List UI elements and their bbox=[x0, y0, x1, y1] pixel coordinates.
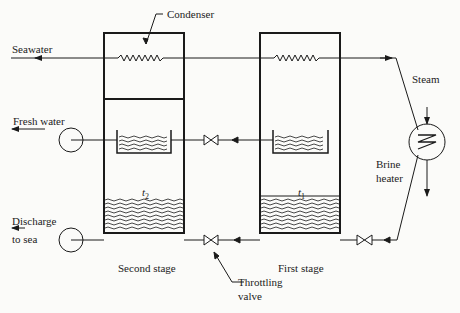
wave-pattern bbox=[105, 136, 339, 229]
fresh-water-label: Fresh water bbox=[13, 115, 65, 128]
seawater-label: Seawater bbox=[12, 43, 52, 56]
desalination-diagram bbox=[0, 0, 460, 313]
condenser-coil-2 bbox=[118, 55, 170, 61]
t1-label: t1 bbox=[298, 186, 305, 203]
second-stage-label: Second stage bbox=[118, 262, 176, 275]
throttling-valve-1 bbox=[357, 235, 372, 245]
throttling-label-1: Throttling bbox=[238, 276, 283, 289]
second-stage-vessel bbox=[104, 33, 184, 99]
steam-label: Steam bbox=[412, 73, 440, 86]
brine-heater-label-1: Brine bbox=[376, 158, 400, 171]
fresh-water-valve bbox=[204, 135, 218, 145]
discharge-label-1: Discharge bbox=[12, 215, 56, 228]
t2-label: t2 bbox=[142, 186, 149, 203]
condenser-label: Condenser bbox=[167, 8, 214, 21]
throttling-valve-2 bbox=[204, 235, 218, 245]
throttling-label-2: valve bbox=[238, 290, 262, 303]
first-stage-label: First stage bbox=[278, 262, 324, 275]
discharge-label-2: to sea bbox=[12, 233, 37, 246]
brine-heater-label-2: heater bbox=[376, 172, 403, 185]
condenser-coil-1 bbox=[274, 55, 326, 61]
